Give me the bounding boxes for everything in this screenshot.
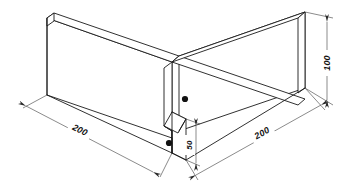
right-wall-solid (172, 12, 305, 131)
dimension-wall-height: 100 (305, 12, 333, 105)
step-height-dimension-label: 50 (185, 140, 194, 150)
right-wall-outer-face (179, 12, 305, 131)
right-dim-ext-line-end (305, 88, 325, 110)
technical-drawing-canvas: 200 200 100 (0, 0, 345, 196)
height-dim-ext-top (305, 12, 333, 18)
right-wall-end-cap (298, 12, 305, 93)
isometric-corner-wall-drawing: 200 200 100 (0, 0, 345, 196)
height-dim-ext-bottom (305, 88, 333, 105)
mounting-hole-upper-icon (182, 96, 188, 102)
left-dim-ext-line-end (160, 153, 172, 177)
mounting-hole-lower-icon (166, 140, 172, 146)
left-wall-solid (47, 13, 179, 138)
wall-height-dimension-label: 100 (322, 55, 332, 71)
